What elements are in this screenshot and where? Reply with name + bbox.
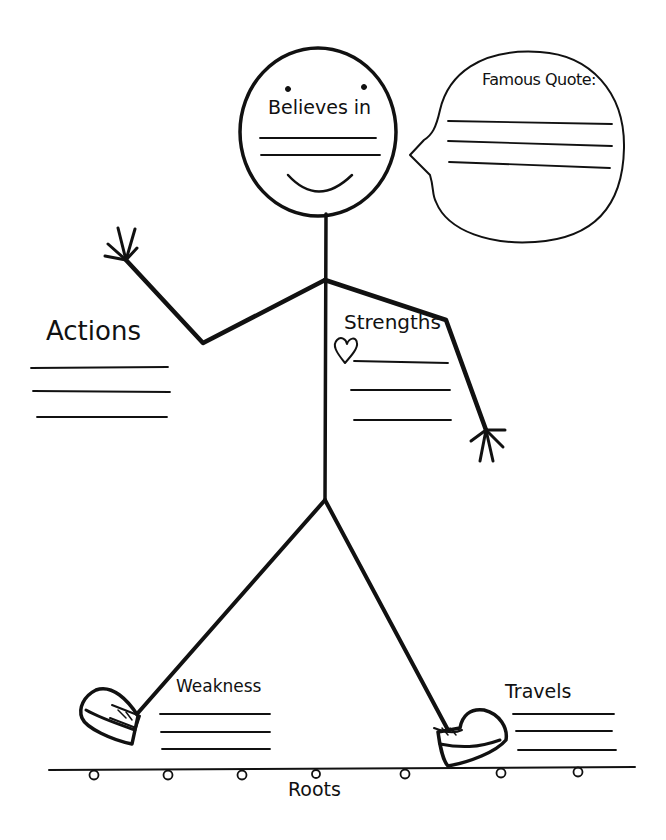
left-hand-icon [105, 228, 137, 260]
root-icon [90, 771, 99, 780]
smile-icon [288, 175, 352, 192]
body [105, 214, 505, 730]
travels-blank-lines [513, 714, 616, 750]
believes-in-label: Believes in [268, 98, 371, 117]
quote-blank-line-1 [448, 121, 612, 124]
root-icon [401, 770, 410, 779]
actions-label: Actions [46, 318, 141, 344]
roots-label: Roots [288, 780, 341, 799]
famous-quote-label: Famous Quote: [482, 72, 596, 88]
root-icon [312, 770, 320, 778]
right-eye-icon [362, 85, 367, 90]
travels-label: Travels [505, 682, 571, 701]
weakness-blank-lines [160, 714, 270, 749]
weakness-label: Weakness [176, 678, 261, 695]
right-shoe-icon [434, 710, 506, 766]
heart-icon [335, 338, 357, 363]
actions-blank-lines [31, 367, 170, 417]
root-icon [238, 771, 247, 780]
quote-blank-line-3 [449, 162, 610, 168]
strengths-label: Strengths [344, 312, 441, 332]
root-icon [164, 771, 173, 780]
root-icon [497, 769, 506, 778]
head [240, 48, 396, 216]
root-icon [574, 768, 583, 777]
right-hand-icon [471, 430, 505, 461]
left-eye-icon [286, 87, 291, 92]
left-shoe-icon [81, 689, 140, 744]
stick-figure-drawing [0, 0, 666, 840]
ground-line [49, 767, 635, 780]
strengths-blank-lines [351, 361, 451, 420]
quote-blank-line-2 [448, 141, 612, 146]
